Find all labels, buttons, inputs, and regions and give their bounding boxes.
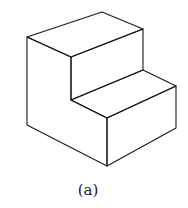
- top-face: [27, 12, 143, 57]
- stepped-block-diagram: [0, 0, 188, 208]
- riser-face: [71, 29, 143, 100]
- figure-caption: (a): [0, 181, 176, 199]
- left-face: [27, 37, 107, 166]
- front-face: [107, 86, 176, 166]
